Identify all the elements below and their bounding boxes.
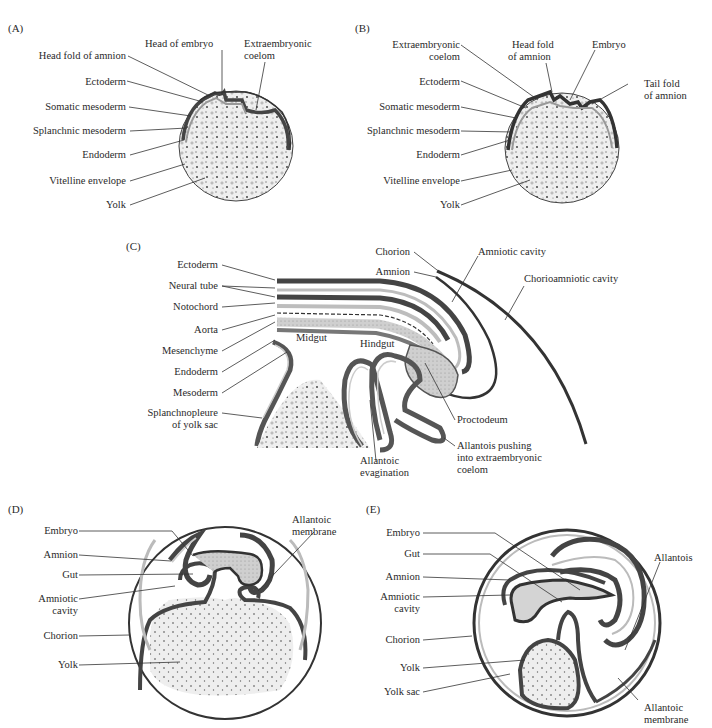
label-tail-fold-line1: Tail fold <box>644 78 680 90</box>
label-somatic-mesoderm: Somatic mesoderm <box>379 101 460 113</box>
label-head-fold-line2: of amnion <box>508 51 551 63</box>
label-splanchnic-mesoderm: Splanchnic mesoderm <box>367 125 460 137</box>
label-mesenchyme: Mesenchyme <box>162 345 218 357</box>
panel-d-artwork <box>129 527 321 719</box>
panel-d-label: (D) <box>8 503 23 515</box>
label-yolk: Yolk <box>440 199 460 211</box>
label-yolk: Yolk <box>58 659 78 671</box>
label-head-fold-line1: Head fold <box>512 39 554 51</box>
label-amniotic-cavity-line2: cavity <box>394 603 420 615</box>
label-splanchnopleure-line2: of yolk sac <box>172 419 218 431</box>
label-aorta: Aorta <box>194 324 218 336</box>
label-gut: Gut <box>404 548 420 560</box>
label-ectoderm: Ectoderm <box>177 259 218 271</box>
label-embryo: Embryo <box>386 527 420 539</box>
label-vitelline-envelope: Vitelline envelope <box>383 175 460 187</box>
label-allantoic-evagination-line2: evagination <box>360 467 409 479</box>
label-extraembryonic-coelom-line2: coelom <box>244 50 275 62</box>
label-neural-tube: Neural tube <box>169 280 218 292</box>
label-proctodeum: Proctodeum <box>457 414 508 426</box>
label-amniotic-cavity-line1: Amniotic <box>38 593 78 605</box>
label-ectoderm: Ectoderm <box>419 76 460 88</box>
label-yolk: Yolk <box>106 199 126 211</box>
label-gut: Gut <box>62 569 78 581</box>
label-allantoic-membrane-line1: Allantoic <box>292 514 331 526</box>
label-chorion: Chorion <box>386 634 420 646</box>
label-allantoic-evagination-line1: Allantoic <box>360 455 399 467</box>
label-chorion: Chorion <box>376 246 410 258</box>
label-endoderm: Endoderm <box>416 149 460 161</box>
label-chorion: Chorion <box>44 630 78 642</box>
panel-a-artwork <box>179 91 293 201</box>
panel-e-label: (E) <box>366 503 380 515</box>
label-amnion: Amnion <box>44 549 78 561</box>
label-extraembryonic-coelom-line1: Extraembryonic <box>244 38 312 50</box>
label-head-fold-of-amnion: Head fold of amnion <box>39 50 126 62</box>
label-allantoic-membrane-line2: membrane <box>644 714 688 726</box>
label-endoderm: Endoderm <box>82 149 126 161</box>
label-yolk-sac: Yolk sac <box>384 686 420 698</box>
label-yolk: Yolk <box>400 662 420 674</box>
label-amniotic-cavity-line2: cavity <box>52 605 78 617</box>
label-amniotic-cavity-line1: Amniotic <box>380 591 420 603</box>
label-extraembryonic-coelom-line2: coelom <box>429 51 460 63</box>
label-mesoderm: Mesoderm <box>173 387 218 399</box>
label-splanchnopleure-line1: Splanchnopleure <box>147 407 218 419</box>
panel-c-artwork <box>257 271 586 450</box>
panel-b-label: (B) <box>355 22 370 34</box>
label-splanchnic-mesoderm: Splanchnic mesoderm <box>33 125 126 137</box>
label-extraembryonic-coelom-line1: Extraembryonic <box>392 39 460 51</box>
label-somatic-mesoderm: Somatic mesoderm <box>45 101 126 113</box>
label-allantoic-membrane-line2: membrane <box>292 526 336 538</box>
label-allantois-pushing-line1: Allantois pushing <box>457 440 531 452</box>
label-midgut: Midgut <box>296 332 327 344</box>
label-allantois-pushing-line3: coelom <box>457 464 488 476</box>
panel-b-artwork <box>505 92 619 203</box>
label-amniotic-cavity: Amniotic cavity <box>478 246 546 258</box>
panel-c-label: (C) <box>126 240 141 252</box>
label-embryo: Embryo <box>44 525 78 537</box>
label-chorioamniotic-cavity: Chorioamniotic cavity <box>524 273 618 285</box>
label-head-of-embryo: Head of embryo <box>145 38 213 50</box>
label-embryo: Embryo <box>592 39 626 51</box>
label-allantoic-membrane-line1: Allantoic <box>644 702 683 714</box>
label-hindgut: Hindgut <box>360 338 394 350</box>
label-endoderm: Endoderm <box>174 366 218 378</box>
label-vitelline-envelope: Vitelline envelope <box>49 175 126 187</box>
panel-e-artwork <box>474 530 660 716</box>
panel-a-label: (A) <box>8 22 23 34</box>
label-amnion: Amnion <box>376 266 410 278</box>
label-ectoderm: Ectoderm <box>85 76 126 88</box>
label-allantois-pushing-line2: into extraembryonic <box>457 452 542 464</box>
label-allantois: Allantois <box>654 552 693 564</box>
label-tail-fold-line2: of amnion <box>644 90 687 102</box>
label-notochord: Notochord <box>173 301 218 313</box>
label-amnion: Amnion <box>386 571 420 583</box>
